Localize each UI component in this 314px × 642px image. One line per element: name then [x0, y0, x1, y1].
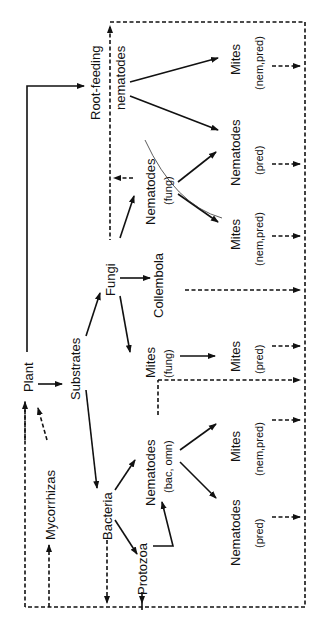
node-fungi: Fungi [103, 263, 118, 296]
node-mites-nem-pred-mid-qualifier: (nem,pred) [253, 212, 265, 266]
substrates-to-fungi-arrow [86, 293, 100, 336]
node-root-feeding-nematodes-line2: nematodes [113, 45, 128, 110]
nematodes-bac-to-nematodes-pred-arrow [180, 462, 216, 498]
node-mites-nem-pred-low: Mites [228, 430, 243, 462]
protozoa-to-nematodes-arrow [153, 502, 173, 546]
node-mites-fung-qualifier: (fung) [162, 349, 174, 378]
node-mycorrhizas: Mycorrhizas [43, 469, 58, 540]
node-mites-pred: Mites [228, 340, 243, 372]
node-nematodes-pred-top: Nematodes [228, 119, 243, 186]
nematodes-bac-to-mites-arrow [180, 424, 216, 450]
substrates-to-bacteria-arrow [86, 390, 97, 488]
fungi-to-nematodes-arrow [120, 196, 134, 238]
bacteria-to-protozoa-arrow [115, 520, 137, 554]
root-nematodes-to-mites-arrow [130, 58, 218, 82]
plant-to-root-nematodes-arrow [27, 86, 84, 352]
node-substrates: Substrates [68, 337, 83, 400]
node-mites-pred-qualifier: (pred) [253, 345, 265, 374]
node-nematodes-bac-omn-qualifier: (bac, omn) [162, 440, 174, 493]
node-mites-nem-pred-low-qualifier: (nem,pred) [253, 422, 265, 476]
node-nematodes-pred-top-qualifier: (pred) [253, 146, 265, 175]
nematodes-fung-to-mites-arrow [178, 194, 218, 222]
node-root-feeding-nematodes-line1: Root-feeding [88, 46, 103, 120]
node-mites-fung: Mites [143, 346, 158, 378]
node-collembola: Collembola [151, 252, 166, 318]
node-bacteria: Bacteria [100, 492, 115, 540]
bacteria-to-nematodes-arrow [115, 460, 135, 490]
fungi-to-mites-arrow [120, 296, 130, 352]
node-nematodes-fung-qualifier: (fung) [162, 176, 174, 205]
node-nematodes-pred-low-qualifier: (pred) [253, 519, 265, 548]
root-nematodes-to-nematodes-arrow [130, 96, 218, 130]
soil-food-web-diagram: Plant Mycorrhizas Substrates Fungi Bacte… [0, 0, 314, 642]
node-mites-nem-pred-top-qualifier: (nem,pred) [253, 36, 265, 90]
node-nematodes-fung: Nematodes [143, 158, 158, 225]
node-plant: Plant [21, 362, 36, 392]
node-nematodes-bac-omn: Nematodes [143, 439, 158, 506]
mycorrhizas-to-plant-arrow [38, 408, 47, 440]
node-mites-nem-pred-mid: Mites [228, 218, 243, 250]
node-nematodes-pred-low: Nematodes [228, 499, 243, 566]
node-mites-nem-pred-top: Mites [228, 43, 243, 75]
nematodes-fung-to-nematodes-pred-arrow [178, 152, 216, 182]
node-protozoa: Protozoa [135, 542, 150, 595]
